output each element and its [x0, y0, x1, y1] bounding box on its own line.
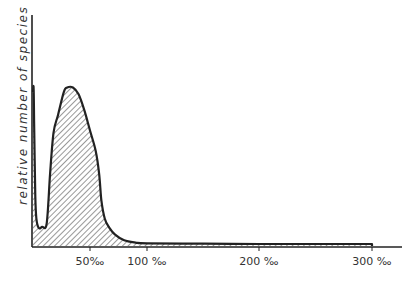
x-tick-label: 300 ‰: [352, 255, 391, 268]
x-tick-label: 50‰: [76, 255, 105, 268]
x-axis-ticks: 50‰100 ‰200 ‰300 ‰: [76, 247, 392, 268]
x-tick-label: 200 ‰: [239, 255, 278, 268]
plot-area: [33, 86, 372, 246]
species-salinity-chart: 50‰100 ‰200 ‰300 ‰ relative number of sp…: [0, 0, 418, 283]
y-axis-label: relative number of species: [16, 6, 30, 205]
x-tick-label: 100 ‰: [127, 255, 166, 268]
